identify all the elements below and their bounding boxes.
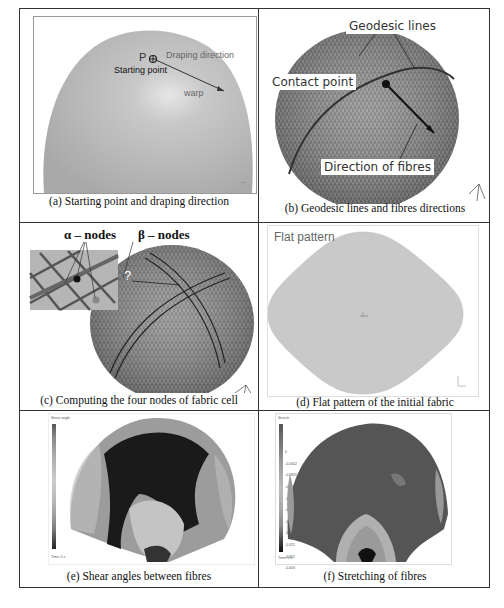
panel-f-caption: (f) Stretching of fibres bbox=[259, 570, 491, 582]
panel-c-caption: (c) Computing the four nodes of fabric c… bbox=[20, 394, 258, 406]
contact-point-label: Contact point bbox=[269, 74, 356, 90]
panel-e-viewport: Shear angle Time: 0 s bbox=[48, 413, 255, 565]
beta-nodes-label: β – nodes bbox=[138, 227, 190, 243]
fibre-stretch-map bbox=[276, 414, 451, 564]
flat-pattern-label: Flat pattern bbox=[274, 230, 335, 244]
starting-point-label: Starting point bbox=[114, 65, 167, 75]
panel-a: P Draping direction Starting point warp … bbox=[20, 9, 258, 222]
panel-d-viewport: Flat pattern bbox=[267, 225, 479, 397]
dome-with-fibre-bands bbox=[20, 223, 258, 393]
panel-f-viewport: Stretch 0-0.0402-0.0805-0.121-0.161-0.20… bbox=[275, 413, 452, 565]
axis-triad-icon bbox=[235, 385, 252, 393]
panel-b-caption: (b) Geodesic lines and fibres directions bbox=[259, 202, 491, 214]
panel-e: Shear angle Time: 0 s (e) Shear angles b… bbox=[20, 411, 258, 589]
panel-a-caption: (a) Starting point and draping direction bbox=[20, 195, 258, 207]
point-p-label: P bbox=[139, 51, 146, 63]
axis-triad-icon bbox=[469, 184, 485, 201]
direction-of-fibres-label: Direction of fibres bbox=[321, 159, 434, 175]
panel-d-caption: (d) Flat pattern of the initial fabric bbox=[259, 396, 491, 408]
panel-e-caption: (e) Shear angles between fibres bbox=[20, 570, 258, 582]
axis-icon bbox=[458, 376, 466, 386]
draping-direction-label: Draping direction bbox=[166, 50, 234, 60]
panel-c: α – nodes β – nodes ? (c) Computing the … bbox=[20, 223, 258, 410]
panel-d: Flat pattern (d) Flat pattern of the ini… bbox=[259, 223, 491, 410]
panel-a-viewport: P Draping direction Starting point warp … bbox=[33, 16, 257, 194]
panel-b: Geodesic lines Contact point Direction o… bbox=[259, 9, 491, 222]
geodesic-lines-label: Geodesic lines bbox=[346, 18, 439, 34]
axis-triad-icon: ⌐ bbox=[241, 177, 246, 187]
alpha-nodes-label: α – nodes bbox=[64, 227, 116, 243]
warp-label: warp bbox=[184, 88, 204, 98]
figure-grid: P Draping direction Starting point warp … bbox=[19, 8, 490, 588]
shear-angle-map bbox=[49, 414, 254, 564]
dome-surface bbox=[34, 17, 256, 193]
question-mark-label: ? bbox=[124, 268, 131, 283]
flat-pattern-shape bbox=[268, 226, 478, 396]
panel-f: Stretch 0-0.0402-0.0805-0.121-0.161-0.20… bbox=[259, 411, 491, 589]
